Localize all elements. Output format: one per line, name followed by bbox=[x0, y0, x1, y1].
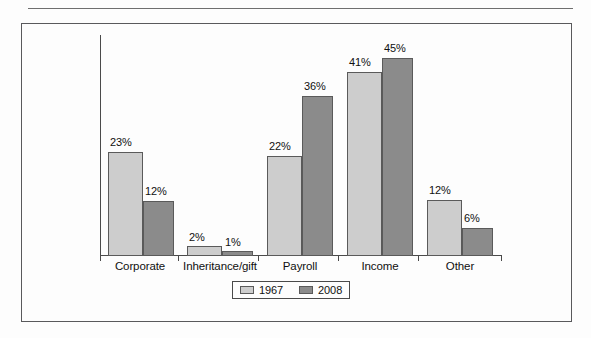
bar-label-corporate-1967: 23% bbox=[110, 136, 132, 148]
bar-inheritance-1967 bbox=[187, 246, 222, 256]
bar-label-corporate-2008: 12% bbox=[145, 185, 167, 197]
bar-other-2008 bbox=[462, 228, 493, 256]
plot-area: 23% 12% Corporate 2% 1% Inheritance/gift… bbox=[0, 0, 591, 338]
category-label-payroll: Payroll bbox=[260, 260, 340, 272]
bar-payroll-1967 bbox=[267, 156, 302, 256]
legend-swatch-2008-icon bbox=[299, 286, 313, 294]
bar-label-other-1967: 12% bbox=[429, 184, 451, 196]
chart-legend: 1967 2008 bbox=[232, 281, 350, 299]
legend-item-1967: 1967 bbox=[240, 284, 283, 296]
bar-corporate-1967 bbox=[108, 152, 143, 256]
axis-tick bbox=[501, 256, 502, 261]
category-label-income: Income bbox=[340, 260, 420, 272]
bar-income-2008 bbox=[382, 58, 413, 256]
bar-label-other-2008: 6% bbox=[464, 212, 480, 224]
bar-other-1967 bbox=[427, 200, 462, 256]
bar-corporate-2008 bbox=[143, 201, 174, 256]
bar-label-inheritance-2008: 1% bbox=[225, 236, 241, 248]
category-label-inheritance: Inheritance/gift bbox=[168, 260, 272, 272]
chart-page: 23% 12% Corporate 2% 1% Inheritance/gift… bbox=[0, 0, 591, 338]
bar-label-inheritance-1967: 2% bbox=[189, 231, 205, 243]
bar-label-income-2008: 45% bbox=[384, 42, 406, 54]
legend-item-2008: 2008 bbox=[299, 284, 342, 296]
bar-payroll-2008 bbox=[302, 96, 333, 256]
bar-income-1967 bbox=[347, 72, 382, 256]
bar-label-income-1967: 41% bbox=[349, 56, 371, 68]
bar-inheritance-2008 bbox=[222, 251, 253, 256]
category-label-other: Other bbox=[420, 260, 500, 272]
bar-label-payroll-2008: 36% bbox=[304, 80, 326, 92]
legend-label-1967: 1967 bbox=[259, 284, 283, 296]
legend-label-2008: 2008 bbox=[318, 284, 342, 296]
legend-swatch-1967-icon bbox=[240, 286, 254, 294]
y-axis-line bbox=[100, 35, 101, 256]
bar-label-payroll-1967: 22% bbox=[269, 140, 291, 152]
